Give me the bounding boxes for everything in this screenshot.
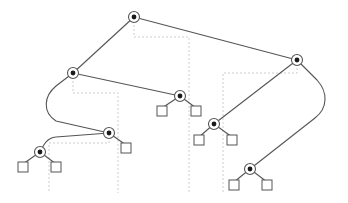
node-d [104, 128, 115, 139]
node-dot-icon [132, 15, 137, 20]
node-b [292, 55, 303, 66]
node-e [35, 147, 46, 158]
node-c [175, 91, 186, 102]
leaf-nodes [18, 106, 272, 190]
edge-b-f [214, 60, 297, 124]
leaf-square-icon [51, 162, 61, 172]
guide-line-b [223, 64, 297, 193]
node-dot-icon [248, 167, 253, 172]
node-g [245, 164, 256, 175]
leaf-square-icon [18, 162, 28, 172]
leaf-square-icon [194, 135, 204, 145]
leaf-square-icon [262, 180, 272, 190]
leaf-square-icon [227, 135, 237, 145]
edge-d-e [40, 133, 109, 152]
dashed-guide-lines [49, 21, 297, 193]
edge-root-a [73, 17, 134, 73]
node-dot-icon [38, 150, 43, 155]
node-dot-icon [107, 131, 112, 136]
node-root [129, 12, 140, 23]
node-a [68, 68, 79, 79]
tree-diagram [0, 0, 348, 203]
leaf-square-icon [229, 180, 239, 190]
leaf-square-icon [157, 106, 167, 116]
edge-b-g [250, 60, 325, 169]
leaf-square-icon [191, 106, 201, 116]
node-f [209, 119, 220, 130]
node-dot-icon [295, 58, 300, 63]
leaf-square-icon [121, 143, 131, 153]
tree-edges [23, 17, 325, 182]
edge-root-b [134, 17, 297, 60]
edge-a-d [46, 73, 109, 133]
node-dot-icon [178, 94, 183, 99]
node-dot-icon [212, 122, 217, 127]
node-dot-icon [71, 71, 76, 76]
